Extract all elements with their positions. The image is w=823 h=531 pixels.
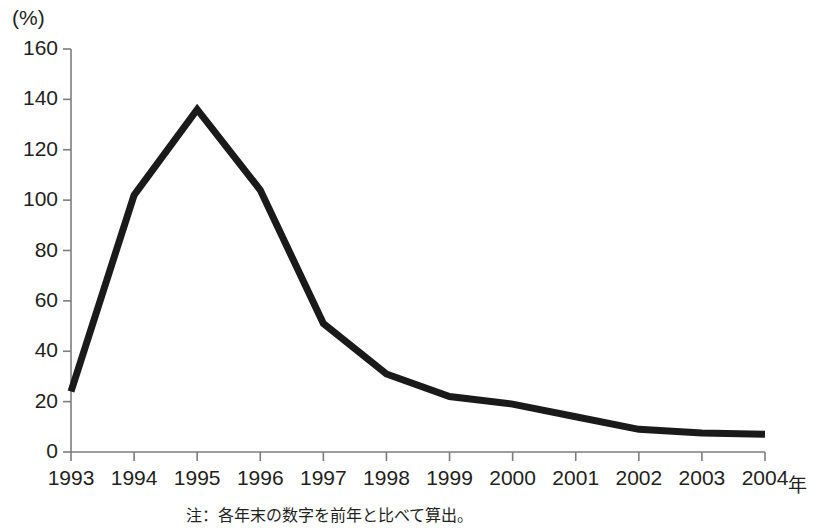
data-line-series-1 xyxy=(71,109,765,434)
y-axis-tick-label: 40 xyxy=(0,338,58,362)
y-axis-tick-label: 120 xyxy=(0,137,58,161)
data-series-group xyxy=(71,109,765,434)
y-axis-tick-label: 0 xyxy=(0,439,58,463)
x-axis-unit-label: 年 xyxy=(788,470,807,497)
line-chart-plot xyxy=(0,0,823,531)
y-axis-tick-label: 140 xyxy=(0,86,58,110)
y-axis-tick-label: 160 xyxy=(0,36,58,60)
chart-container: (%) 020406080100120140160 19931994199519… xyxy=(0,0,823,531)
y-axis-tick-label: 100 xyxy=(0,187,58,211)
y-axis-ticks xyxy=(63,49,71,452)
x-axis-ticks xyxy=(71,452,765,461)
y-axis-tick-label: 20 xyxy=(0,389,58,413)
y-axis-tick-label: 80 xyxy=(0,238,58,262)
y-axis-tick-label: 60 xyxy=(0,288,58,312)
axes xyxy=(71,49,765,452)
chart-note: 注：各年末の数字を前年と比べて算出。 xyxy=(186,502,473,526)
